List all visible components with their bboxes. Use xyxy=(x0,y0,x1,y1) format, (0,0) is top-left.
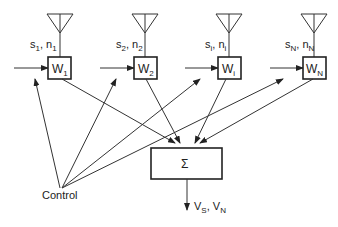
signal-noise-label-1: s1, n1 xyxy=(30,38,57,53)
antenna-element-1: W1 s1, n1 xyxy=(14,14,73,79)
signal-noise-label-i: si, ni xyxy=(205,38,227,53)
adaptive-array-diagram: W1 s1, n1 W2 s2, n2 Wi si, ni WN sN, nN xyxy=(0,0,338,227)
antenna-element-i: Wi si, ni xyxy=(185,14,242,79)
antenna-element-2: W2 s2, n2 xyxy=(100,14,158,79)
output-label: VS, VN xyxy=(194,200,226,215)
signal-noise-label-n: sN, nN xyxy=(285,38,315,53)
signal-noise-label-2: s2, n2 xyxy=(116,38,143,53)
antenna-element-n: WN sN, nN xyxy=(270,14,327,79)
control-label: Control xyxy=(42,189,77,201)
summer-symbol: Σ xyxy=(181,157,188,171)
